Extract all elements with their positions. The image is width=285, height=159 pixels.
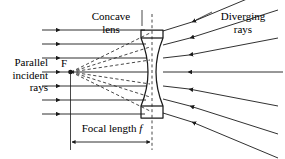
label-focal-point-f: F bbox=[61, 57, 67, 70]
ray-seg bbox=[163, 99, 190, 106]
diverging-ray bbox=[190, 106, 278, 134]
ray-seg bbox=[163, 38, 190, 45]
label-parallel-incident-rays: Parallel incident rays bbox=[0, 56, 48, 94]
optics-diagram: Parallel incident rays Concave lens Dive… bbox=[0, 0, 285, 159]
diverging-ray bbox=[192, 122, 278, 158]
ray-seg bbox=[163, 86, 189, 89]
label-concave-lens: Concave lens bbox=[83, 10, 139, 35]
diverging-ray bbox=[189, 89, 278, 106]
focal-length-symbol: f bbox=[139, 122, 142, 134]
ray-seg bbox=[163, 22, 192, 31]
ray-seg bbox=[163, 113, 192, 122]
label-diverging-rays: Diverging rays bbox=[205, 10, 281, 35]
focal-length-text: Focal length bbox=[82, 122, 139, 134]
diverging-ray bbox=[189, 38, 278, 55]
ray-seg bbox=[163, 55, 189, 58]
diverging-rays-inner-segments bbox=[163, 22, 192, 122]
virtual-ray bbox=[71, 72, 150, 97]
incident-rays-group bbox=[42, 30, 148, 114]
virtual-ray bbox=[71, 47, 150, 72]
label-focal-length: Focal length f bbox=[72, 122, 152, 135]
